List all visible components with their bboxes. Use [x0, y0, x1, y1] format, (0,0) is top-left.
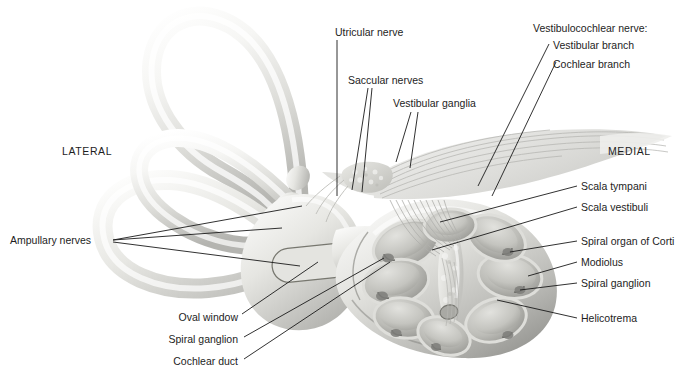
- label-scala-vestibuli: Scala vestibuli: [581, 201, 648, 213]
- label-spiral-ganglion-left: Spiral ganglion: [130, 333, 238, 345]
- label-vestibular-branch: Vestibular branch: [553, 39, 634, 51]
- anatomy-artwork: [0, 0, 678, 376]
- label-spiral-ganglion-right: Spiral ganglion: [581, 277, 650, 289]
- label-spiral-organ-of-corti: Spiral organ of Corti: [581, 235, 674, 247]
- figure-canvas: LATERAL MEDIAL Utricular nerve Saccular …: [0, 0, 678, 376]
- orientation-label-lateral: LATERAL: [62, 145, 112, 157]
- label-cochlear-duct: Cochlear duct: [130, 355, 238, 367]
- label-utricular-nerve: Utricular nerve: [335, 26, 403, 38]
- label-vestibulocochlear-nerve: Vestibulocochlear nerve:: [533, 22, 647, 34]
- label-cochlear-branch: Cochlear branch: [553, 58, 630, 70]
- label-vestibular-ganglia: Vestibular ganglia: [393, 97, 476, 109]
- label-modiolus: Modiolus: [581, 256, 623, 268]
- label-helicotrema: Helicotrema: [581, 312, 637, 324]
- label-oval-window: Oval window: [130, 311, 238, 323]
- label-saccular-nerves: Saccular nerves: [348, 74, 423, 86]
- leader-vestibular-ganglia-1: [396, 112, 411, 162]
- orientation-label-medial: MEDIAL: [608, 145, 651, 157]
- label-scala-tympani: Scala tympani: [581, 180, 647, 192]
- label-ampullary-nerves: Ampullary nerves: [10, 234, 91, 246]
